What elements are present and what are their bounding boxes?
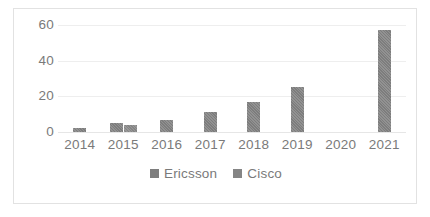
legend-label: Ericsson xyxy=(164,167,217,181)
bars-layer xyxy=(58,25,406,132)
x-axis-tick-label: 2018 xyxy=(238,137,269,153)
x-axis-tick-label: 2020 xyxy=(325,137,356,153)
x-axis: 20142015201620172018201920202021 xyxy=(58,137,406,159)
bar-ericsson-2016[interactable] xyxy=(160,120,173,132)
legend-item-ericsson[interactable]: Ericsson xyxy=(150,167,217,181)
legend-swatch-icon xyxy=(233,169,242,178)
bar-group xyxy=(363,25,407,132)
bar-group xyxy=(276,25,320,132)
legend-item-cisco[interactable]: Cisco xyxy=(233,167,282,181)
x-axis-tick-label: 2017 xyxy=(195,137,226,153)
legend-label: Cisco xyxy=(247,167,282,181)
y-axis-tick-label: 40 xyxy=(22,54,54,68)
bar-group xyxy=(189,25,233,132)
bar-cisco-2015[interactable] xyxy=(124,125,137,132)
bar-ericsson-2019[interactable] xyxy=(291,87,304,132)
x-axis-tick-label: 2016 xyxy=(151,137,182,153)
gridline-0 xyxy=(58,132,406,133)
y-axis-tick-label: 60 xyxy=(22,18,54,32)
x-axis-tick-label: 2019 xyxy=(282,137,313,153)
bar-ericsson-2015[interactable] xyxy=(110,123,123,132)
x-axis-tick-label: 2014 xyxy=(64,137,95,153)
bar-group xyxy=(145,25,189,132)
bar-group xyxy=(102,25,146,132)
y-axis-tick-label: 0 xyxy=(22,125,54,139)
chart-legend: EricssonCisco xyxy=(14,167,418,181)
plot-area xyxy=(58,25,406,132)
x-axis-tick-label: 2015 xyxy=(108,137,139,153)
bar-ericsson-2017[interactable] xyxy=(204,112,217,132)
bar-ericsson-2014[interactable] xyxy=(73,128,86,132)
y-axis-tick-label: 20 xyxy=(22,90,54,104)
x-axis-tick-label: 2021 xyxy=(369,137,400,153)
bar-ericsson-2021[interactable] xyxy=(378,30,391,132)
chart-container: 0204060 20142015201620172018201920202021… xyxy=(13,8,417,204)
bar-ericsson-2018[interactable] xyxy=(247,102,260,132)
legend-swatch-icon xyxy=(150,169,159,178)
bar-group xyxy=(319,25,363,132)
bar-group xyxy=(232,25,276,132)
chart-plot-wrapper: 0204060 20142015201620172018201920202021… xyxy=(14,9,418,205)
bar-group xyxy=(58,25,102,132)
